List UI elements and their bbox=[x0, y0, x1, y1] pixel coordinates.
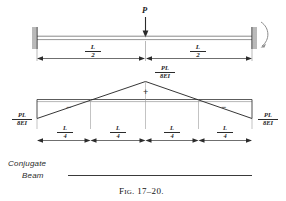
peak-value-den: 8EI bbox=[155, 72, 175, 80]
span-dimension-line bbox=[37, 41, 252, 61]
rotation-arc-icon bbox=[261, 22, 268, 48]
load-label-P: P bbox=[142, 6, 147, 15]
dimension-span-right-den: 2 bbox=[190, 51, 206, 59]
conjugate-beam-label-line2: Beam bbox=[22, 172, 44, 180]
dimension-span-right: L 2 bbox=[190, 44, 206, 59]
dimension-span-left-den: 2 bbox=[85, 51, 101, 59]
dimension-span-left: L 2 bbox=[85, 44, 101, 59]
peak-value-num: PL bbox=[155, 65, 175, 72]
dimension-quarter-2-num: L bbox=[110, 125, 126, 132]
dimension-span-right-num: L bbox=[190, 44, 206, 51]
dimension-quarter-1: L 4 bbox=[57, 125, 73, 139]
dimension-quarter-2: L 4 bbox=[110, 125, 126, 139]
load-arrow-P bbox=[143, 17, 149, 38]
dimension-quarter-1-den: 4 bbox=[57, 132, 73, 140]
right-fixed-support-icon bbox=[252, 27, 257, 49]
dimension-quarter-2-den: 4 bbox=[110, 132, 126, 140]
dimension-quarter-3-den: 4 bbox=[164, 132, 180, 140]
figure-caption-number: . 17–20. bbox=[132, 186, 164, 196]
dimension-quarter-4-den: 4 bbox=[217, 132, 233, 140]
left-fixed-support-icon bbox=[32, 27, 37, 49]
beam-member bbox=[37, 36, 252, 39]
figure-container: P L 2 L 2 PL 8EI PL 8EI PL 8EI − + − L 4… bbox=[0, 0, 286, 201]
dimension-quarter-3: L 4 bbox=[164, 125, 180, 139]
figure-caption-smallcaps: IG bbox=[124, 188, 132, 196]
conjugate-beam-label-line1: Conjugate bbox=[8, 160, 46, 168]
figure-caption: FIG. 17–20. bbox=[119, 187, 164, 196]
sign-negative-right: − bbox=[221, 103, 226, 112]
sign-positive-center: + bbox=[143, 88, 148, 97]
sign-negative-left: − bbox=[66, 103, 71, 112]
dimension-quarter-1-num: L bbox=[57, 125, 73, 132]
dimension-quarter-4: L 4 bbox=[217, 125, 233, 139]
left-end-value-label: PL 8EI bbox=[12, 112, 32, 126]
left-end-value-num: PL bbox=[12, 112, 32, 119]
dimension-quarter-3-num: L bbox=[164, 125, 180, 132]
right-end-value-num: PL bbox=[258, 112, 278, 119]
right-end-value-label: PL 8EI bbox=[258, 112, 278, 126]
dimension-span-left-num: L bbox=[85, 44, 101, 51]
left-end-value-den: 8EI bbox=[12, 119, 32, 127]
peak-value-label: PL 8EI bbox=[155, 65, 175, 79]
right-end-value-den: 8EI bbox=[258, 119, 278, 127]
dimension-quarter-4-num: L bbox=[217, 125, 233, 132]
